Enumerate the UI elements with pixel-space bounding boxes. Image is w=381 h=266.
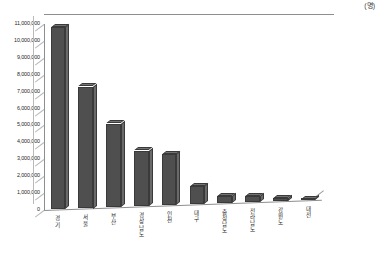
bar[interactable]: [190, 186, 204, 204]
bar-chart: 11,000,00010,000,0009,000,0008,000,0007,…: [0, 14, 381, 266]
bar-front-face: [162, 154, 176, 205]
y-axis-tick-label: 6,000,000: [17, 106, 40, 111]
bar-front-face: [301, 198, 315, 200]
bar-side-face: [121, 121, 125, 208]
x-axis-labels: 경기서울부산경상남도인천대구충청남도전라남도강원도대전: [44, 214, 334, 266]
bar[interactable]: [78, 87, 92, 209]
x-axis-tick-label: 인천: [165, 211, 173, 223]
bar-front-face: [78, 87, 92, 209]
bar-side-face: [176, 151, 180, 205]
x-axis-tick-label: 대구: [193, 210, 201, 222]
bar[interactable]: [106, 124, 120, 207]
bar-side-face: [204, 183, 208, 204]
x-axis-tick-label: 서울: [82, 214, 90, 226]
x-axis-tick-label: 강원도: [276, 207, 284, 225]
x-axis-tick-label: 충청남도: [221, 209, 229, 233]
y-axis-tick-label: 5,000,000: [17, 123, 40, 128]
y-axis-tick-label: 3,000,000: [17, 157, 40, 162]
bar-front-face: [134, 151, 148, 206]
bar[interactable]: [162, 154, 176, 205]
bar[interactable]: [245, 196, 259, 202]
bars-group: [44, 14, 334, 214]
axis-back-vertical: [33, 16, 34, 204]
bar-side-face: [149, 148, 153, 206]
bar-front-face: [190, 186, 204, 204]
x-axis-tick-label: 경상남도: [137, 212, 145, 236]
x-axis-tick-label: 전라남도: [249, 208, 257, 232]
y-axis-tick-label: 9,000,000: [17, 55, 40, 60]
bar-side-face: [93, 83, 97, 208]
y-axis-tick-label: 1,000,000: [17, 190, 40, 195]
bar-front-face: [273, 198, 287, 201]
y-axis-tick-label: 4,000,000: [17, 140, 40, 145]
y-axis-tick-label: 7,000,000: [17, 89, 40, 94]
y-axis-tick-label: 8,000,000: [17, 72, 40, 77]
bar-front-face: [51, 27, 65, 209]
unit-note: (명): [364, 2, 375, 9]
x-axis-tick-label: 대전: [304, 206, 312, 218]
bar-front-face: [217, 196, 231, 203]
plot-area: [44, 14, 334, 214]
x-axis-tick-label: 경기: [54, 215, 62, 227]
bar[interactable]: [51, 27, 65, 209]
y-axis-tick-label: 2,000,000: [17, 173, 40, 178]
bar-side-face: [65, 24, 69, 209]
y-axis-tick-label: 10,000,000: [14, 38, 40, 43]
bar-front-face: [106, 124, 120, 207]
y-axis-tick-label: 11,000,000: [14, 21, 40, 26]
bar[interactable]: [217, 196, 231, 203]
bar[interactable]: [301, 199, 315, 200]
x-axis-tick-label: 부산: [110, 213, 118, 225]
bar[interactable]: [273, 198, 287, 201]
bar[interactable]: [134, 151, 148, 206]
bar-front-face: [245, 196, 259, 202]
